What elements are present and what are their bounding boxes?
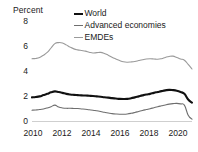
legend-item-world: World	[74, 8, 166, 19]
legend-label-world: World	[85, 9, 107, 18]
series-line-emdes	[32, 43, 192, 69]
series-line-advanced-economies	[32, 103, 192, 119]
legend-swatch-world	[74, 13, 83, 15]
legend-swatch-emdes	[74, 37, 83, 38]
legend-swatch-advanced-economies	[74, 25, 83, 26]
chart-figure: Percent 8 6 4 2 0 2010 2012 2014 2016 20…	[0, 0, 198, 152]
legend-label-advanced-economies: Advanced economies	[85, 21, 166, 30]
legend: World Advanced economies EMDEs	[74, 8, 166, 44]
legend-item-emdes: EMDEs	[74, 32, 166, 43]
legend-label-emdes: EMDEs	[85, 33, 114, 42]
series-group	[32, 43, 192, 120]
legend-item-advanced-economies: Advanced economies	[74, 20, 166, 31]
series-line-world	[32, 90, 192, 103]
